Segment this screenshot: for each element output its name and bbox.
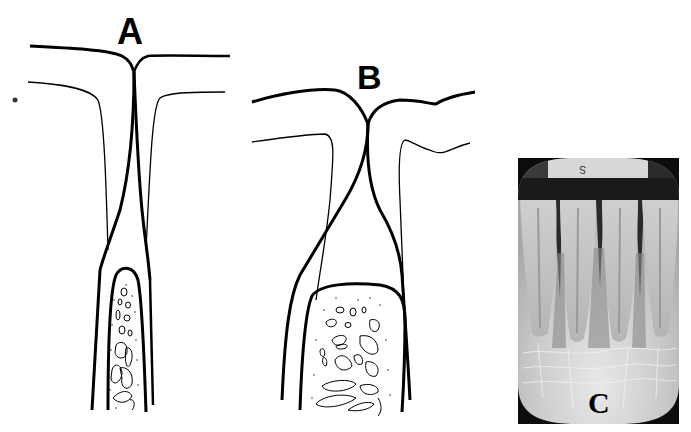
dental-radiograph: S: [518, 158, 679, 424]
panel-label-b: B: [357, 60, 382, 94]
panel-a-drawing: [0, 0, 250, 432]
interdental-septum-narrow-drawing: [0, 0, 250, 432]
radiograph-image: S: [518, 158, 679, 424]
panel-label-c: C: [588, 388, 610, 418]
film-orientation-mark: S: [579, 164, 586, 175]
panel-label-a: A: [117, 14, 143, 50]
